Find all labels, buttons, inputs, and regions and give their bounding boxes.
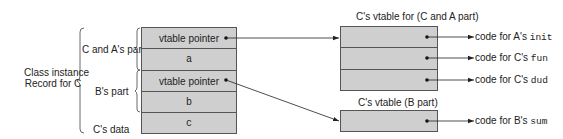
connectors <box>0 0 563 139</box>
arrow-vptr-to-vtable-b <box>226 80 339 121</box>
brace-class-instance <box>77 28 84 133</box>
brace-b <box>135 70 140 112</box>
brace-c-and-a <box>135 28 140 70</box>
